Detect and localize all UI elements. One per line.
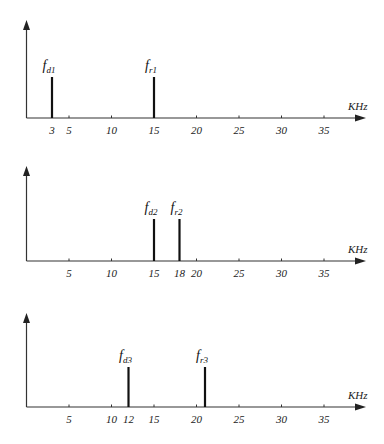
y-axis-arrow-icon — [23, 166, 30, 176]
x-tick-label: 10 — [106, 267, 118, 279]
x-axis-unit-label: KHz — [347, 389, 368, 401]
spectrum-panel-3: KHz510121520253035fd3fr3 — [23, 313, 368, 425]
x-tick-label: 25 — [234, 413, 246, 425]
x-tick-label: 12 — [123, 413, 135, 425]
x-tick-label: 30 — [275, 267, 288, 279]
x-tick-label: 35 — [318, 124, 331, 136]
spectral-line-label: fd2 — [145, 200, 158, 217]
x-tick-label: 15 — [149, 124, 161, 136]
x-tick-label: 35 — [318, 267, 331, 279]
spectrum-panel-1: KHz35101520253035fd1fr1 — [23, 20, 368, 136]
x-tick-label: 10 — [106, 413, 118, 425]
x-tick-label: 35 — [318, 413, 331, 425]
spectral-line-label: fr1 — [145, 58, 157, 75]
x-tick-label: 5 — [66, 267, 72, 279]
x-tick-label: 30 — [275, 413, 288, 425]
x-tick-label: 15 — [149, 267, 161, 279]
spectral-line-label: fr3 — [196, 348, 208, 365]
x-axis-unit-label: KHz — [347, 243, 368, 255]
x-tick-label: 30 — [275, 124, 288, 136]
x-tick-label: 3 — [48, 124, 55, 136]
x-tick-label: 5 — [66, 124, 72, 136]
x-tick-label: 15 — [149, 413, 161, 425]
x-axis-unit-label: KHz — [347, 100, 368, 112]
x-axis-arrow-icon — [355, 258, 366, 265]
x-tick-label: 25 — [234, 124, 246, 136]
x-tick-label: 20 — [191, 413, 203, 425]
spectral-line-label: fd3 — [119, 348, 132, 365]
x-tick-label: 20 — [191, 267, 203, 279]
x-tick-label: 10 — [106, 124, 118, 136]
x-axis-arrow-icon — [355, 115, 366, 122]
spectrum-panel-2: KHz510151820253035fd2fr2 — [23, 166, 368, 279]
y-axis-arrow-icon — [23, 313, 30, 323]
spectrum-figure: KHz35101520253035fd1fr1KHz51015182025303… — [0, 0, 384, 444]
x-tick-label: 5 — [66, 413, 72, 425]
x-tick-label: 25 — [234, 267, 246, 279]
y-axis-arrow-icon — [23, 20, 30, 30]
x-tick-label: 20 — [191, 124, 203, 136]
x-tick-label: 18 — [174, 267, 186, 279]
spectral-line-label: fd1 — [43, 58, 56, 75]
x-axis-arrow-icon — [355, 404, 366, 411]
spectral-line-label: fr2 — [171, 200, 183, 217]
